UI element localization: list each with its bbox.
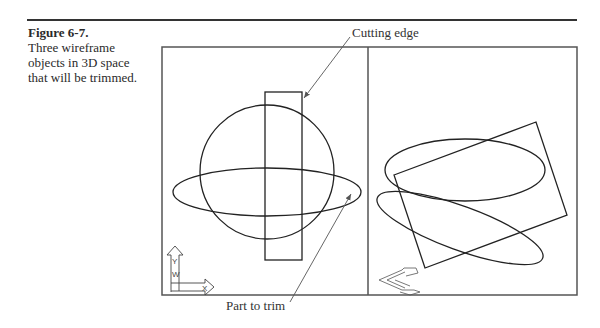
right-viewport (370, 122, 567, 295)
ucs-icon-right (379, 268, 420, 295)
cutting-edge-leader (304, 37, 350, 98)
wireframe-figure: Y W X (0, 0, 600, 328)
cutting-edge-label: Cutting edge (352, 25, 419, 41)
left-viewport: Y W X (167, 92, 361, 295)
sphere-circle (200, 105, 334, 239)
part-to-trim-leader (290, 194, 351, 302)
horizontal-ellipse (173, 168, 361, 216)
tilted-ellipse (370, 177, 550, 279)
ucs-y-label: Y (172, 257, 178, 266)
cutting-edge-rectangle (265, 92, 302, 260)
part-to-trim-label: Part to trim (226, 298, 285, 314)
ucs-x-label: X (202, 284, 208, 293)
ucs-w-label: W (172, 270, 180, 279)
